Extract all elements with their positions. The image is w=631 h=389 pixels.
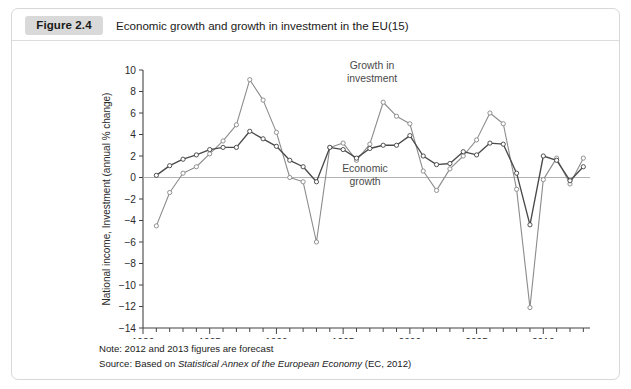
y-tick-label: 2 (130, 151, 136, 162)
note-line: Note: 2012 and 2013 figures are forecast (99, 342, 599, 357)
y-tick-label: −6 (124, 237, 136, 248)
x-tick-label: 1990 (265, 337, 288, 339)
y-tick-label: 6 (130, 108, 136, 119)
source-line: Source: Based on Statistical Annex of th… (99, 357, 599, 372)
source-prefix: Source: Based on (99, 358, 178, 369)
y-tick-label: −14 (119, 323, 137, 334)
y-tick-label: −8 (124, 258, 136, 269)
x-tick-label: 2005 (465, 337, 488, 339)
x-axis: 1980198519901995200020052010 (132, 328, 590, 339)
y-tick-label: 10 (125, 65, 137, 76)
data-series (154, 78, 585, 310)
figure-card: Figure 2.4 Economic growth and growth in… (11, 8, 620, 380)
annotation-economic-growth-line-1: Economic (342, 163, 388, 174)
y-axis-title-text: National income, Investment (annual % ch… (101, 93, 112, 306)
source-suffix: (EC, 2012) (362, 358, 411, 369)
y-axis-title: National income, Investment (annual % ch… (101, 93, 112, 306)
y-tick-label: 8 (130, 86, 136, 97)
y-tick-label: −4 (124, 215, 136, 226)
y-tick-label: −12 (119, 301, 137, 312)
y-tick-label: 4 (130, 129, 136, 140)
chart-plot-area: −14−12−10−8−6−4−20246810 198019851990199… (12, 42, 619, 339)
annotation-economic-growth-line-2: growth (349, 176, 380, 187)
figure-number-badge: Figure 2.4 (25, 16, 103, 35)
annotation-growth-in-investment-line-1: Growth in (350, 60, 395, 71)
line-chart: −14−12−10−8−6−4−20246810 198019851990199… (12, 42, 619, 339)
y-tick-label: 0 (130, 172, 136, 183)
figure-header: Figure 2.4 Economic growth and growth in… (12, 9, 619, 41)
annotation-growth-in-investment-line-2: investment (347, 73, 397, 84)
x-tick-label: 2000 (399, 337, 422, 339)
x-tick-label: 1995 (332, 337, 355, 339)
y-tick-label: −2 (124, 194, 136, 205)
x-tick-label: 2010 (532, 337, 555, 339)
data-series-group (154, 78, 585, 310)
source-italic-title: Statistical Annex of the European Econom… (178, 358, 362, 369)
y-tick-label: −10 (119, 280, 137, 291)
footnotes: Note: 2012 and 2013 figures are forecast… (99, 342, 599, 371)
x-tick-label: 1980 (132, 337, 155, 339)
figure-title: Economic growth and growth in investment… (116, 17, 409, 34)
x-tick-label: 1985 (198, 337, 221, 339)
series-annotations: Growth ininvestmentEconomicgrowth (342, 60, 397, 187)
y-axis: −14−12−10−8−6−4−20246810 (119, 65, 143, 334)
